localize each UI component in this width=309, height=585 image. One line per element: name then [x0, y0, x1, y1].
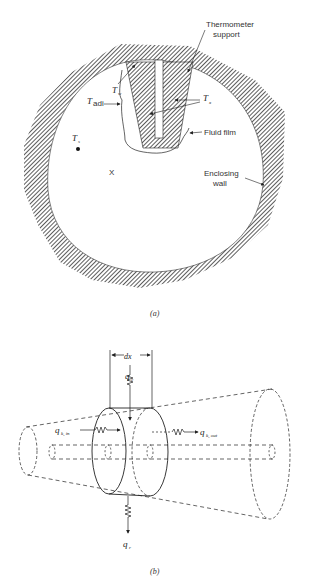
- tadi-subscript: adi: [93, 99, 104, 108]
- thermometer-well: [155, 60, 163, 138]
- tx-subscript: x: [208, 100, 212, 105]
- figure-canvas: Thermometer support T w T adi T x T s X …: [0, 0, 309, 585]
- ts-subscript: s: [78, 139, 80, 144]
- caption-a: (a): [150, 309, 160, 318]
- qc-subscript: c: [131, 377, 134, 382]
- qk-out-label: q: [200, 427, 205, 437]
- figure-b: [19, 350, 290, 533]
- figure-b-labels: dx q c q k, in q k, out q r (b): [55, 352, 218, 576]
- thermometer-support-label-1: Thermometer: [206, 20, 254, 29]
- caption-b: (b): [150, 567, 160, 576]
- enclosing-wall-label-1: Enclosing: [204, 169, 239, 178]
- qk-in-label: q: [55, 425, 60, 435]
- qk-out-subscript: k, out: [206, 433, 218, 439]
- qr-subscript: r: [129, 545, 131, 550]
- cv-left-face: [92, 408, 126, 494]
- x-mark: X: [109, 168, 115, 177]
- enclosing-wall-label-2: wall: [212, 179, 227, 188]
- qr-label: q: [123, 539, 128, 549]
- dx-label: dx: [124, 352, 132, 361]
- tw-subscript: w: [118, 91, 122, 96]
- ts-point: [76, 147, 80, 151]
- fluid-film-label: Fluid film: [204, 128, 236, 137]
- qk-in-subscript: k, in: [61, 431, 70, 437]
- qc-label: q: [125, 371, 130, 381]
- thermometer-support-label-2: support: [213, 30, 240, 39]
- figure-a: Thermometer support T w T adi T x T s X …: [24, 20, 285, 318]
